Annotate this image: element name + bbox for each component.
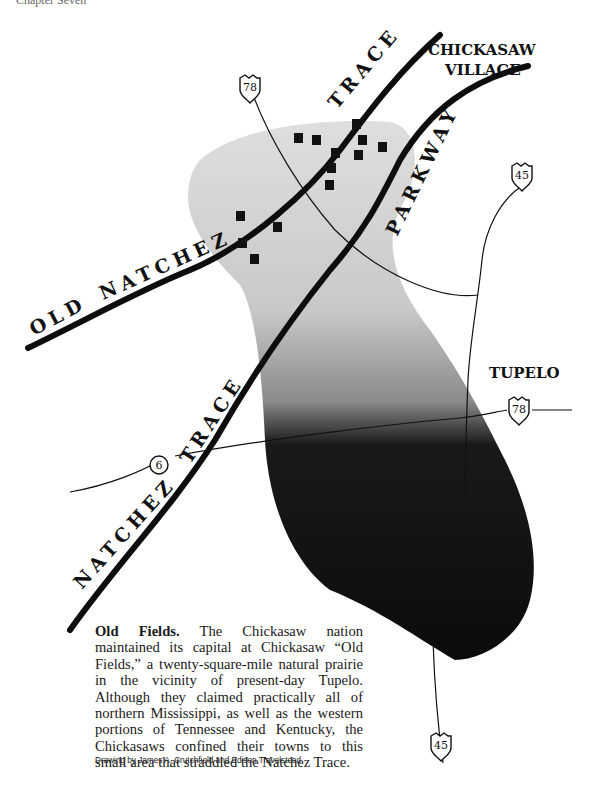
caption-body: The Chickasaw nation maintained its capi… [95, 623, 363, 770]
label-trace-old: TRACE [323, 22, 404, 112]
label-trace-parkway: TRACE [175, 372, 248, 467]
svg-text:78: 78 [512, 403, 526, 416]
svg-text:78: 78 [243, 81, 257, 94]
svg-text:45: 45 [434, 739, 448, 752]
state-6-marker: 6 [150, 456, 168, 474]
us-78-shield-east: 78 [509, 397, 529, 425]
us-78-shield-north: 78 [240, 75, 260, 103]
svg-text:45: 45 [515, 169, 529, 182]
caption-title: Old Fields. [95, 623, 180, 639]
us-45-shield-south: 45 [431, 733, 451, 761]
drawing-credit: Drawing by James A. Crutchfield and Edis… [95, 756, 301, 765]
map-caption: Old Fields. The Chickasaw nation maintai… [95, 623, 363, 771]
label-tupelo: TUPELO [489, 364, 560, 382]
label-natchez-old: NATCHEZ [96, 226, 234, 304]
label-village: VILLAGE [444, 61, 521, 79]
svg-text:6: 6 [156, 459, 163, 472]
label-chickasaw: CHICKASAW [428, 41, 537, 59]
label-natchez-parkway: NATCHEZ [69, 473, 180, 593]
us-45-shield-north: 45 [512, 163, 532, 191]
